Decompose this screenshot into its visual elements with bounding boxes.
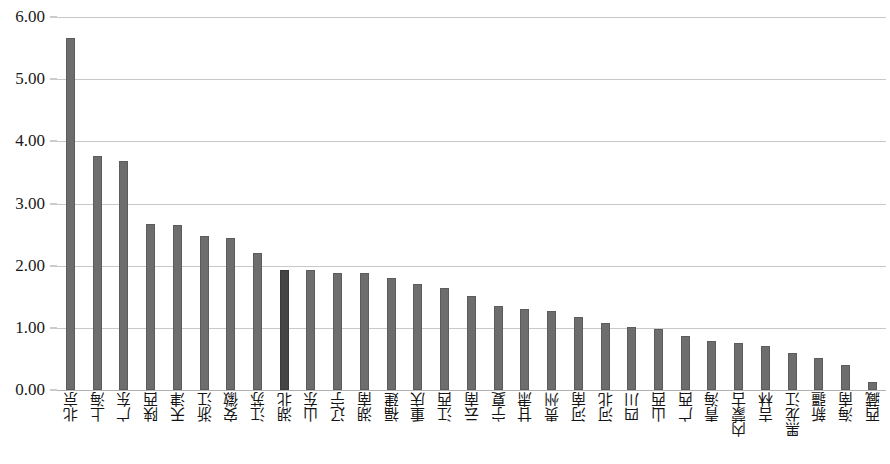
x-label-slot: 湖北 (271, 392, 298, 464)
x-axis-tick-label: 北京 (63, 392, 78, 422)
bar[interactable] (93, 156, 102, 390)
bar-slot (699, 17, 726, 390)
bar[interactable] (520, 309, 529, 390)
bar-slot (511, 17, 538, 390)
bar[interactable] (467, 296, 476, 390)
bar[interactable] (494, 306, 503, 390)
bar[interactable] (707, 341, 716, 390)
bar[interactable] (280, 270, 289, 390)
x-label-slot: 上海 (84, 392, 111, 464)
bar[interactable] (173, 225, 182, 390)
bar-slot (324, 17, 351, 390)
bar[interactable] (226, 238, 235, 390)
bar[interactable] (574, 317, 583, 390)
x-axis-tick-label: 浙江 (197, 392, 212, 422)
bar-slot (485, 17, 512, 390)
y-axis-tick-label: 1.00 (15, 318, 45, 338)
bar[interactable] (306, 270, 315, 390)
bar[interactable] (200, 236, 209, 390)
bar-slot (84, 17, 111, 390)
bar-slot (244, 17, 271, 390)
x-label-slot: 陕西 (137, 392, 164, 464)
x-axis-tick-label: 甘肃 (517, 392, 532, 422)
x-axis-tick-label: 安徽 (223, 392, 238, 422)
bar[interactable] (547, 311, 556, 390)
bar-slot (725, 17, 752, 390)
bar-slot (191, 17, 218, 390)
y-axis-tick-label: 0.00 (15, 380, 45, 400)
x-axis-tick-label: 黑龙江 (785, 392, 800, 437)
bar[interactable] (360, 273, 369, 390)
bar[interactable] (761, 346, 770, 390)
bar[interactable] (841, 365, 850, 390)
x-axis-tick-label: 吉林 (758, 392, 773, 422)
x-axis-tick-label: 新疆 (811, 392, 826, 422)
x-label-slot: 安徽 (217, 392, 244, 464)
bar[interactable] (681, 336, 690, 390)
bar[interactable] (814, 358, 823, 390)
bar-slot (164, 17, 191, 390)
x-label-slot: 甘肃 (511, 392, 538, 464)
x-label-slot: 福建 (378, 392, 405, 464)
y-axis-tick-label: 2.00 (15, 256, 45, 276)
bar[interactable] (387, 278, 396, 390)
x-axis-tick-label: 陕西 (143, 392, 158, 422)
x-label-slot: 广东 (110, 392, 137, 464)
x-label-slot: 江苏 (244, 392, 271, 464)
plot-area (57, 17, 886, 390)
y-axis-tick-label: 3.00 (15, 194, 45, 214)
y-axis: 0.001.002.003.004.005.006.00 (0, 0, 57, 464)
bar[interactable] (253, 253, 262, 390)
bar-slot (752, 17, 779, 390)
x-label-slot: 四川 (618, 392, 645, 464)
bar-slot (779, 17, 806, 390)
y-axis-tick-mark (50, 390, 57, 391)
x-label-slot: 西藏 (859, 392, 886, 464)
x-label-slot: 贵州 (538, 392, 565, 464)
x-axis-tick-label: 重庆 (410, 392, 425, 422)
x-label-slot: 吉林 (752, 392, 779, 464)
x-label-slot: 辽宁 (324, 392, 351, 464)
bar[interactable] (734, 343, 743, 390)
x-axis-tick-label: 河南 (571, 392, 586, 422)
bar-slot (806, 17, 833, 390)
bar[interactable] (333, 273, 342, 390)
bar[interactable] (788, 353, 797, 390)
x-label-slot: 重庆 (405, 392, 432, 464)
x-axis-tick-label: 海南 (838, 392, 853, 422)
x-axis-labels: 北京上海广东陕西天津浙江安徽江苏湖北山东辽宁湖南福建重庆江西云南宁夏甘肃贵州河南… (57, 392, 886, 464)
x-axis-tick-label: 福建 (384, 392, 399, 422)
x-axis-tick-label: 江西 (437, 392, 452, 422)
bar[interactable] (413, 284, 422, 390)
bar[interactable] (146, 224, 155, 390)
bar[interactable] (654, 329, 663, 390)
x-axis-tick-label: 内蒙古 (731, 392, 746, 437)
bar[interactable] (601, 323, 610, 390)
bar-slot (431, 17, 458, 390)
bar-slot (217, 17, 244, 390)
x-axis-tick-label: 广西 (678, 392, 693, 422)
bar-slot (271, 17, 298, 390)
bar-slot (538, 17, 565, 390)
gridline-0.00 (57, 390, 886, 391)
x-axis-tick-label: 天津 (170, 392, 185, 422)
x-label-slot: 云南 (458, 392, 485, 464)
x-axis-tick-label: 广东 (116, 392, 131, 422)
bar-slot (859, 17, 886, 390)
bar-slot (592, 17, 619, 390)
bar[interactable] (440, 288, 449, 390)
y-axis-tick-mark (50, 327, 57, 328)
x-label-slot: 北京 (57, 392, 84, 464)
bar-slot (110, 17, 137, 390)
bar[interactable] (627, 327, 636, 390)
bar[interactable] (119, 161, 128, 390)
x-axis-tick-label: 宁夏 (491, 392, 506, 422)
x-axis-tick-label: 云南 (464, 392, 479, 422)
x-label-slot: 天津 (164, 392, 191, 464)
y-axis-tick-mark (50, 203, 57, 204)
x-label-slot: 山东 (298, 392, 325, 464)
bar-slot (405, 17, 432, 390)
bar-slot (832, 17, 859, 390)
bar[interactable] (868, 382, 877, 390)
bar[interactable] (66, 38, 75, 390)
